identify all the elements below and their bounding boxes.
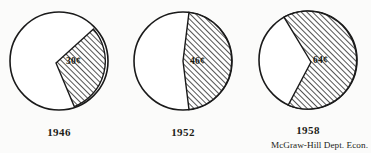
- pie-year-label-1952: 1952: [171, 126, 195, 138]
- pie-chart-figure: 30¢ 1946 46¢ 1952 64¢ 1958 McGraw-Hill D…: [0, 0, 371, 153]
- pie-year-label-1946: 1946: [47, 126, 71, 138]
- pie-value-label-1958: 64¢: [313, 55, 328, 65]
- pie-value-label-1946: 30¢: [66, 56, 81, 66]
- source-credit-label: McGraw-Hill Dept. Econ.: [271, 140, 368, 150]
- pie-value-label-1952: 46¢: [190, 56, 205, 66]
- pie-year-label-1958: 1958: [296, 124, 320, 136]
